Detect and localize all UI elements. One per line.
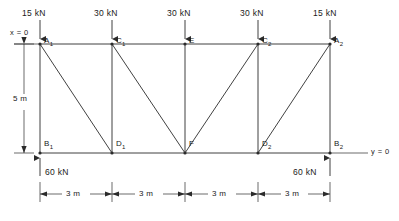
member-diagonal-A1-D1 xyxy=(40,44,112,153)
node-marker-B1 xyxy=(38,151,41,154)
member-diagonal-D2-A2 xyxy=(258,44,330,153)
node-label-A2: A2 xyxy=(334,36,343,47)
x-origin-label: x = 0 xyxy=(10,28,28,37)
member-diagonal-F-C2 xyxy=(185,44,258,153)
node-marker-F xyxy=(183,151,186,154)
bay-dimension-label-3: 3 m xyxy=(212,189,226,198)
node-marker-C2 xyxy=(256,42,259,45)
node-marker-A1 xyxy=(38,42,41,45)
load-label-A1: 15 kN xyxy=(22,8,46,18)
reaction-arrows xyxy=(40,158,330,176)
load-label-C1: 30 kN xyxy=(94,8,118,18)
node-marker-E xyxy=(183,42,186,45)
member-diagonal-C1-F xyxy=(112,44,185,153)
truss-members xyxy=(40,44,330,153)
y-origin-label: y = 0 xyxy=(371,147,389,156)
reaction-label-B2: 60 kN xyxy=(293,167,317,177)
reaction-label-B1: 60 kN xyxy=(45,167,69,177)
node-label-C2: C2 xyxy=(262,36,272,47)
applied-load-arrows xyxy=(40,20,330,39)
node-label-D1: D1 xyxy=(116,139,126,150)
node-label-A1: A1 xyxy=(44,36,53,47)
truss-drawing-canvas xyxy=(0,0,399,221)
node-marker-D2 xyxy=(256,151,259,154)
node-marker-B2 xyxy=(328,151,331,154)
bay-dimension-label-4: 3 m xyxy=(285,189,299,198)
bay-dimension-label-2: 3 m xyxy=(139,189,153,198)
node-marker-A2 xyxy=(328,42,331,45)
node-label-B1: B1 xyxy=(44,139,53,150)
load-label-C2: 30 kN xyxy=(240,8,264,18)
node-label-B2: B2 xyxy=(334,139,343,150)
node-label-E: E xyxy=(189,36,195,47)
load-label-E: 30 kN xyxy=(167,8,191,18)
truss-diagram: 15 kN 30 kN 30 kN 30 kN 15 kN 60 kN 60 k… xyxy=(0,0,399,221)
node-marker-D1 xyxy=(110,151,113,154)
axis-reference-lines xyxy=(14,44,368,153)
node-marker-C1 xyxy=(110,42,113,45)
node-label-F: F xyxy=(189,139,194,150)
node-label-D2: D2 xyxy=(262,139,272,150)
load-label-A2: 15 kN xyxy=(313,8,337,18)
node-label-C1: C1 xyxy=(116,36,126,47)
vertical-dimension-label: 5 m xyxy=(13,94,27,103)
bay-dimension-label-1: 3 m xyxy=(66,189,80,198)
